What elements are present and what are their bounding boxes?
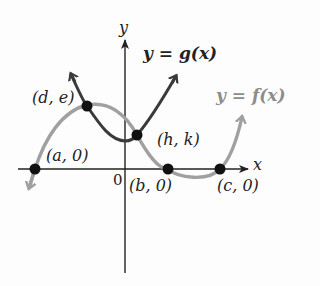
point-a-label: (a, 0) [46, 148, 88, 164]
point-hk [132, 130, 143, 141]
curve-g-left-arrow [71, 74, 75, 82]
point-b-label: (b, 0) [129, 178, 172, 194]
point-de-label: (d, e) [32, 90, 74, 106]
point-b [163, 164, 174, 175]
point-a [30, 164, 41, 175]
y-axis-label: y [119, 20, 128, 36]
point-c-label: (c, 0) [217, 178, 259, 194]
x-axis-label: x [253, 157, 262, 173]
point-de [82, 101, 93, 112]
point-c [215, 164, 226, 175]
curve-g-right-arrow [172, 76, 176, 83]
origin-label: 0 [113, 173, 123, 188]
point-hk-label: (h, k) [157, 132, 200, 148]
curve-g-label: y = g(x) [143, 45, 217, 62]
curve-f-label: y = f(x) [216, 87, 286, 104]
